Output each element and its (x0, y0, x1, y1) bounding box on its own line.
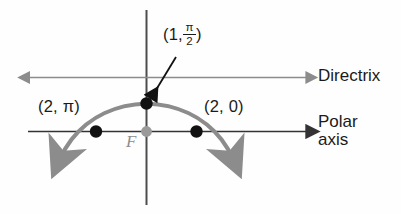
polar-axis-label: Polar axis (318, 113, 358, 149)
point-left-intercept (90, 125, 102, 137)
left-point-label: (2, π) (38, 98, 80, 115)
polar-axis-label-line-1: Polar (318, 113, 358, 131)
polar-parabola-figure: (1,π2) (2, π) (2, 0) F Directrix Polar a… (0, 0, 401, 214)
vertex-label-radius: 1, (169, 25, 183, 43)
point-right-intercept (190, 125, 202, 137)
pi-over-two-fraction: π2 (183, 22, 195, 47)
directrix-label: Directrix (318, 67, 380, 85)
point-vertex (140, 97, 152, 109)
right-point-label: (2, 0) (204, 98, 244, 115)
focus-label: F (126, 133, 136, 151)
polar-axis-label-line-2: axis (318, 131, 358, 149)
vertex-label-close-paren: ) (196, 25, 202, 43)
fraction-denominator: 2 (183, 36, 195, 48)
point-focus (141, 126, 152, 137)
vertex-point-label: (1,π2) (163, 22, 202, 47)
fraction-numerator: π (183, 22, 195, 34)
